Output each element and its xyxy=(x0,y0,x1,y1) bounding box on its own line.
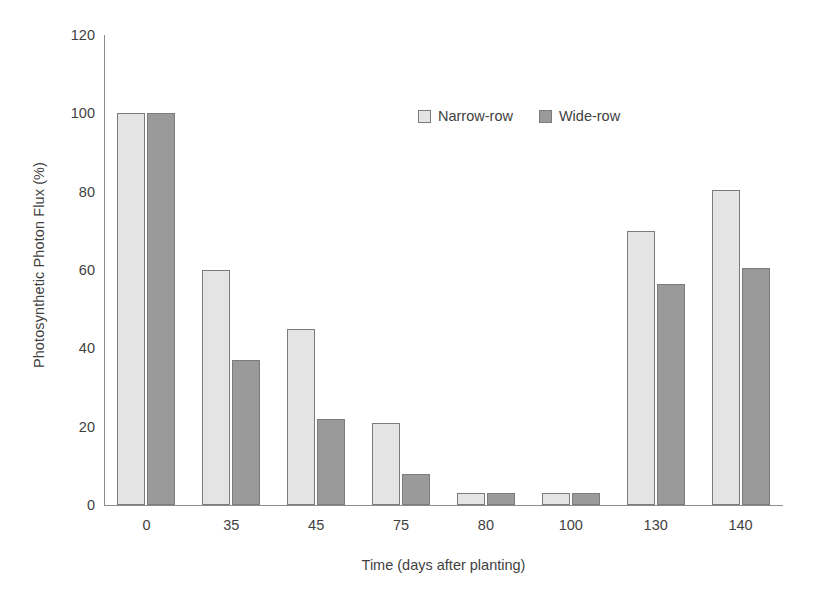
bar-group xyxy=(372,35,430,505)
bar[interactable] xyxy=(317,419,345,505)
legend-entry-wide-row: Wide-row xyxy=(539,108,620,124)
bar[interactable] xyxy=(402,474,430,505)
y-axis-tick-label: 120 xyxy=(35,27,95,43)
y-axis-tick-label: 80 xyxy=(35,184,95,200)
bar-group xyxy=(542,35,600,505)
bar-group xyxy=(712,35,770,505)
x-axis-tick-label: 100 xyxy=(559,517,583,533)
bar[interactable] xyxy=(742,268,770,505)
bar[interactable] xyxy=(232,360,260,505)
bars-layer xyxy=(104,35,783,505)
bar-group xyxy=(202,35,260,505)
bar[interactable] xyxy=(147,113,175,505)
x-axis-tick-label: 75 xyxy=(393,517,409,533)
legend-swatch-icon xyxy=(539,110,552,123)
x-axis-tick-label: 0 xyxy=(142,517,150,533)
legend-swatch-icon xyxy=(418,110,431,123)
y-axis-tick-label: 100 xyxy=(35,105,95,121)
x-axis-tick-label: 130 xyxy=(644,517,668,533)
y-axis-tick-label: 60 xyxy=(35,262,95,278)
bar[interactable] xyxy=(627,231,655,505)
legend-label: Narrow-row xyxy=(438,108,513,124)
y-axis-tick-label: 20 xyxy=(35,419,95,435)
bar[interactable] xyxy=(712,190,740,505)
bar[interactable] xyxy=(372,423,400,505)
bar[interactable] xyxy=(117,113,145,505)
bar[interactable] xyxy=(572,493,600,505)
bar-group xyxy=(287,35,345,505)
bar-group xyxy=(457,35,515,505)
x-axis-tick-label: 140 xyxy=(728,517,752,533)
bar[interactable] xyxy=(202,270,230,505)
y-axis-tick-label: 40 xyxy=(35,340,95,356)
x-axis-title: Time (days after planting) xyxy=(104,557,783,573)
bar[interactable] xyxy=(542,493,570,505)
x-axis-tick-label: 80 xyxy=(478,517,494,533)
x-axis-line xyxy=(104,505,783,506)
legend-entry-narrow-row: Narrow-row xyxy=(418,108,513,124)
bar[interactable] xyxy=(487,493,515,505)
bar[interactable] xyxy=(287,329,315,505)
bar-group xyxy=(627,35,685,505)
bar[interactable] xyxy=(457,493,485,505)
bar[interactable] xyxy=(657,284,685,505)
y-axis-tick-label: 0 xyxy=(35,497,95,513)
x-axis-tick-label: 45 xyxy=(308,517,324,533)
legend-label: Wide-row xyxy=(559,108,620,124)
chart-figure: Photosynthetic Photon Flux (%) 020406080… xyxy=(0,0,814,612)
plot-area: 020406080100120 035457580100130140 xyxy=(104,35,783,505)
chart-legend: Narrow-row Wide-row xyxy=(418,108,620,124)
x-axis-tick-label: 35 xyxy=(223,517,239,533)
bar-group xyxy=(117,35,175,505)
